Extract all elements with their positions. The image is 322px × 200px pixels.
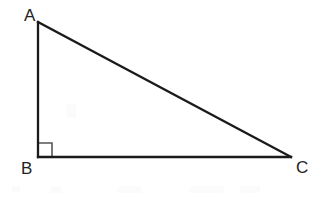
vertex-label-b: B — [21, 160, 32, 177]
triangle-svg — [0, 0, 322, 200]
triangle-edge-ac-hypotenuse — [38, 22, 291, 157]
vertex-label-a: A — [24, 7, 35, 24]
vertex-label-c: C — [296, 159, 308, 176]
geometry-figure: A B C — [0, 0, 322, 200]
right-angle-marker-icon — [39, 143, 52, 156]
